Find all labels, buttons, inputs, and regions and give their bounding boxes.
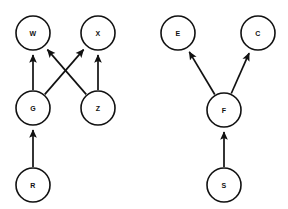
node-label-s: S: [222, 182, 227, 189]
node-label-g: G: [30, 105, 36, 112]
node-label-e: E: [176, 30, 181, 37]
node-w[interactable]: W: [16, 16, 50, 50]
edge-f-to-e: [189, 52, 214, 95]
node-c[interactable]: C: [241, 16, 275, 50]
edge-z-to-w: [47, 50, 86, 95]
edge-g-to-x: [45, 50, 84, 95]
node-g[interactable]: G: [16, 91, 50, 125]
node-e[interactable]: E: [161, 16, 195, 50]
node-label-f: F: [222, 107, 227, 114]
node-f[interactable]: F: [207, 93, 241, 127]
right-graph-nodes: ECFS: [161, 16, 275, 202]
edge-f-to-c: [231, 53, 249, 93]
node-label-w: W: [30, 30, 37, 37]
node-label-x: X: [96, 30, 101, 37]
node-r[interactable]: R: [16, 168, 50, 202]
diagram-root: WXGZRECFS: [0, 0, 288, 209]
nodes-layer: WXGZRECFS: [16, 16, 275, 202]
node-z[interactable]: Z: [81, 91, 115, 125]
node-label-c: C: [255, 30, 260, 37]
node-x[interactable]: X: [81, 16, 115, 50]
node-label-z: Z: [96, 105, 101, 112]
graph-canvas: WXGZRECFS: [0, 0, 288, 209]
node-s[interactable]: S: [207, 168, 241, 202]
left-graph-nodes: WXGZR: [16, 16, 115, 202]
node-label-r: R: [30, 182, 35, 189]
